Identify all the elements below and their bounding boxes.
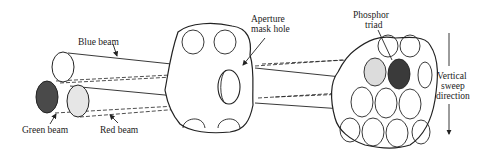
red-beam-gun xyxy=(67,85,89,117)
label-green-beam: Green beam xyxy=(22,125,69,135)
red-beam-leader xyxy=(110,115,118,123)
label-phosphor-1: Phosphor xyxy=(353,10,390,20)
aperture-mask xyxy=(165,24,253,133)
label-aperture-1: Aperture xyxy=(251,14,285,24)
label-red-beam: Red beam xyxy=(100,125,139,135)
label-sweep-1: Vertical xyxy=(437,71,467,81)
green-beam-leader xyxy=(50,114,56,124)
green-beam-gun xyxy=(36,81,58,113)
label-blue-beam: Blue beam xyxy=(78,37,120,47)
phosphor-light-dot xyxy=(364,58,386,86)
label-phosphor-2: triad xyxy=(365,20,383,30)
label-aperture-2: mask hole xyxy=(251,24,290,34)
phosphor-dark-dot xyxy=(388,59,410,89)
label-sweep-3: direction xyxy=(436,91,470,101)
phosphor-screen xyxy=(332,35,438,148)
blue-beam-gun xyxy=(52,52,74,82)
aperture-mask-hole xyxy=(218,70,240,104)
label-sweep-2: sweep xyxy=(441,81,465,91)
crt-shadow-mask-diagram: Blue beam Green beam Red beam Aperture m… xyxy=(0,0,489,157)
